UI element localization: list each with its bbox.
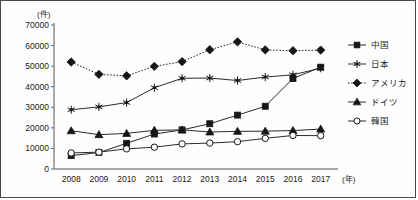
data-point-marker xyxy=(317,132,323,138)
legend-item-0[interactable]: 中国 xyxy=(348,40,389,50)
legend-item-2[interactable]: アメリカ xyxy=(348,78,407,88)
x-axis-unit-label: (年) xyxy=(342,174,356,184)
x-tick-label: 2010 xyxy=(117,174,136,184)
data-point-marker xyxy=(179,141,185,147)
data-point-marker xyxy=(206,45,214,53)
data-point-marker xyxy=(235,112,241,118)
data-point-marker xyxy=(317,125,325,132)
data-point-marker xyxy=(67,58,75,66)
data-point-marker xyxy=(316,46,324,54)
x-tick-label: 2016 xyxy=(284,174,303,184)
y-tick-label: 60000 xyxy=(25,41,49,51)
chart-canvas: 0100002000030000400005000060000700002008… xyxy=(1,1,418,200)
data-point-marker xyxy=(151,144,157,150)
data-point-marker xyxy=(353,79,361,87)
data-point-marker xyxy=(233,38,241,46)
data-point-marker xyxy=(234,138,240,144)
series-2 xyxy=(67,38,325,80)
chart-frame: 0100002000030000400005000060000700002008… xyxy=(0,0,416,198)
data-point-marker xyxy=(354,42,360,48)
series-line xyxy=(71,129,321,135)
legend-label: 日本 xyxy=(371,59,389,69)
y-tick-label: 40000 xyxy=(25,82,49,92)
data-point-marker xyxy=(262,135,268,141)
data-point-marker xyxy=(95,70,103,78)
data-point-marker xyxy=(207,140,213,146)
data-point-marker xyxy=(150,62,158,70)
y-tick-label: 0 xyxy=(44,164,49,174)
series-line xyxy=(71,42,321,76)
y-axis-unit-label: (件) xyxy=(37,9,51,19)
legend-item-3[interactable]: ドイツ xyxy=(348,97,398,107)
data-point-marker xyxy=(67,127,75,134)
line-chart: 0100002000030000400005000060000700002008… xyxy=(1,1,418,200)
legend-label: ドイツ xyxy=(371,97,398,107)
legend-label: 韓国 xyxy=(371,116,389,126)
data-point-marker xyxy=(261,46,269,54)
y-tick-label: 50000 xyxy=(25,61,49,71)
data-point-marker xyxy=(290,132,296,138)
data-point-marker xyxy=(178,57,186,65)
x-tick-label: 2015 xyxy=(256,174,275,184)
x-tick-label: 2009 xyxy=(89,174,108,184)
y-tick-label: 30000 xyxy=(25,102,49,112)
data-point-marker xyxy=(207,121,213,127)
y-tick-label: 20000 xyxy=(25,123,49,133)
y-tick-label: 10000 xyxy=(25,143,49,153)
x-tick-label: 2014 xyxy=(228,174,247,184)
data-point-marker xyxy=(68,150,74,156)
x-tick-label: 2012 xyxy=(173,174,192,184)
x-tick-label: 2011 xyxy=(145,174,164,184)
legend-label: アメリカ xyxy=(371,78,407,88)
data-point-marker xyxy=(122,72,130,80)
data-point-marker xyxy=(151,84,158,92)
data-point-marker xyxy=(289,47,297,55)
x-tick-label: 2017 xyxy=(311,174,330,184)
data-point-marker xyxy=(96,149,102,155)
x-tick-label: 2013 xyxy=(200,174,219,184)
data-point-marker xyxy=(354,118,360,124)
x-tick-label: 2008 xyxy=(62,174,81,184)
series-line xyxy=(71,135,321,152)
series-line xyxy=(71,68,321,110)
legend-item-4[interactable]: 韓国 xyxy=(348,116,389,126)
legend-item-1[interactable]: 日本 xyxy=(348,59,389,69)
legend-label: 中国 xyxy=(371,40,389,50)
series-4 xyxy=(68,132,324,156)
series-1 xyxy=(68,64,325,114)
data-point-marker xyxy=(262,103,268,109)
data-point-marker xyxy=(123,146,129,152)
series-line xyxy=(71,67,321,155)
y-tick-label: 70000 xyxy=(25,20,49,30)
